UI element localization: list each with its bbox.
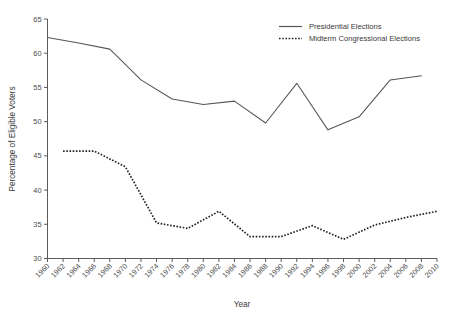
y-tick-label: 35 [33, 220, 41, 229]
series-line-0 [48, 37, 422, 129]
x-tick-label: 1964 [65, 262, 83, 280]
y-tick-label: 45 [33, 151, 41, 160]
y-tick-label: 50 [33, 117, 41, 126]
x-tick-label: 2004 [376, 262, 394, 280]
x-tick-label: 1986 [236, 262, 254, 280]
data-series-group [48, 37, 438, 239]
x-tick-label: 1976 [158, 262, 176, 280]
y-axis-tick-labels: 3035404550556065 [33, 15, 41, 264]
y-tick-label: 30 [33, 254, 41, 263]
x-tick-label: 1992 [283, 262, 301, 280]
x-tick-label: 2008 [407, 262, 425, 280]
y-tick-label: 55 [33, 83, 41, 92]
x-tick-label: 1984 [220, 262, 238, 280]
x-tick-label: 1972 [127, 262, 145, 280]
x-tick-label: 1994 [298, 262, 316, 280]
x-tick-label: 2006 [392, 262, 410, 280]
legend-label-midterm: Midterm Congressional Elections [309, 34, 420, 43]
x-tick-label: 1968 [96, 262, 114, 280]
y-axis-title: Percentage of Eligible Voters [8, 86, 17, 191]
y-tick-label: 60 [33, 49, 41, 58]
axes-group [48, 19, 438, 259]
x-tick-label: 1982 [205, 262, 223, 280]
y-tick-label: 40 [33, 186, 41, 195]
x-tick-label: 2002 [361, 262, 379, 280]
y-tick-label: 65 [33, 15, 41, 24]
x-tick-label: 1990 [267, 262, 285, 280]
x-tick-label: 1988 [252, 262, 270, 280]
x-tick-label: 1962 [49, 262, 67, 280]
chart-legend: Presidential Elections Midterm Congressi… [279, 22, 420, 43]
voter-turnout-line-chart: 3035404550556065 19601962196419661968197… [0, 0, 457, 317]
x-tick-label: 1978 [174, 262, 192, 280]
x-axis-ticks [48, 259, 438, 263]
legend-label-presidential: Presidential Elections [309, 22, 382, 31]
y-axis-ticks [44, 19, 48, 259]
x-tick-label: 1960 [33, 262, 51, 280]
series-line-1 [63, 151, 437, 239]
x-tick-label: 1996 [314, 262, 332, 280]
x-axis-title: Year [234, 300, 251, 309]
x-tick-label: 2010 [423, 262, 441, 280]
x-tick-label: 2000 [345, 262, 363, 280]
x-tick-label: 1980 [189, 262, 207, 280]
x-tick-label: 1998 [329, 262, 347, 280]
x-tick-label: 1966 [80, 262, 98, 280]
x-tick-label: 1970 [111, 262, 129, 280]
x-tick-label: 1974 [142, 262, 160, 280]
x-axis-tick-labels: 1960196219641966196819701972197419761978… [33, 262, 440, 280]
chart-container: 3035404550556065 19601962196419661968197… [0, 0, 457, 317]
